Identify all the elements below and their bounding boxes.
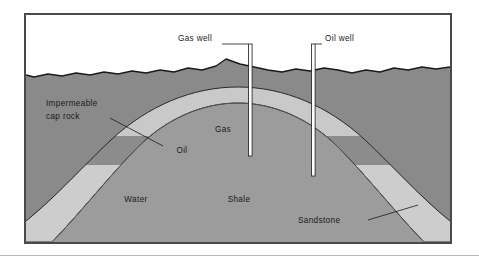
oil-well-label: Oil well bbox=[325, 34, 354, 43]
gas-well-casing[interactable] bbox=[249, 44, 253, 156]
shale-label: Shale bbox=[228, 195, 251, 204]
gas-well-label: Gas well bbox=[178, 34, 212, 43]
water-label: Water bbox=[124, 195, 147, 204]
oil-label: Oil bbox=[176, 146, 187, 155]
oil-well-casing[interactable] bbox=[312, 44, 316, 176]
impermeable-cap-rock-label-line2: cap rock bbox=[46, 112, 80, 121]
geology-cross-section-diagram: Gas well Oil well Impermeable cap rock G… bbox=[26, 15, 450, 242]
gas-well[interactable] bbox=[249, 44, 253, 156]
bottom-horizontal-rule bbox=[0, 255, 479, 256]
sandstone-label: Sandstone bbox=[298, 216, 340, 225]
oil-well[interactable] bbox=[312, 44, 316, 176]
impermeable-cap-rock-label-line1: Impermeable bbox=[46, 99, 98, 108]
figure-page: Gas well Oil well Impermeable cap rock G… bbox=[0, 0, 479, 268]
gas-label: Gas bbox=[215, 125, 231, 134]
figure-frame: Gas well Oil well Impermeable cap rock G… bbox=[24, 13, 452, 244]
